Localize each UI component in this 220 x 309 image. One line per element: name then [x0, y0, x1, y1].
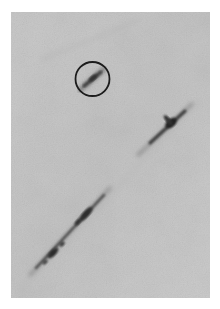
background-mottle: [11, 12, 210, 298]
track-photograph: [11, 12, 210, 298]
photo-graphic: [11, 12, 210, 298]
figure-canvas: Grayscale photograph showing diagonal da…: [0, 0, 220, 309]
